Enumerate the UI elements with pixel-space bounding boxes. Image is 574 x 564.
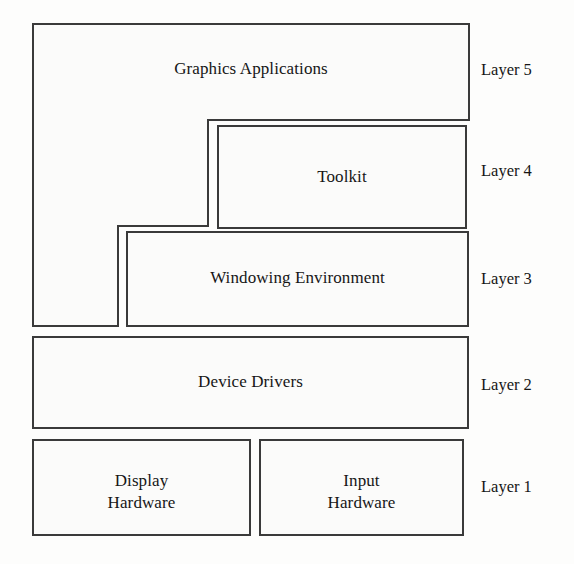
toolkit-box xyxy=(218,126,466,228)
input-hardware-box xyxy=(260,440,463,535)
windowing-environment-box xyxy=(127,232,468,326)
layer-tag-1: Layer 1 xyxy=(481,477,532,497)
device-drivers-box xyxy=(33,337,468,428)
layer-tag-2: Layer 2 xyxy=(481,375,532,395)
layer-tag-5: Layer 5 xyxy=(481,60,532,80)
display-hardware-box xyxy=(33,440,250,535)
layer-tag-3: Layer 3 xyxy=(481,269,532,289)
layer-diagram: Graphics Applications Toolkit Windowing … xyxy=(0,0,574,564)
layer-tag-4: Layer 4 xyxy=(481,161,532,181)
